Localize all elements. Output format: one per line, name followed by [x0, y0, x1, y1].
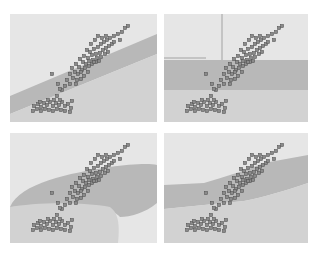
data-point [238, 67, 241, 70]
data-point [83, 174, 86, 177]
data-point [221, 222, 224, 225]
data-point [209, 102, 212, 105]
data-point [190, 227, 193, 230]
data-point [223, 111, 226, 114]
data-point [256, 168, 259, 171]
data-point [95, 53, 98, 56]
data-point [240, 168, 243, 171]
data-point [97, 35, 100, 38]
data-point [64, 204, 67, 207]
data-point [105, 154, 108, 157]
data-point [257, 160, 260, 163]
plot-panel-top-left [10, 14, 157, 122]
data-point [250, 57, 253, 60]
data-point [197, 102, 200, 105]
data-point [56, 108, 59, 111]
data-point [259, 166, 262, 169]
data-point [223, 73, 226, 76]
data-point [241, 176, 244, 179]
data-point [117, 33, 120, 36]
data-point [206, 229, 209, 232]
data-point [210, 95, 213, 98]
data-point [88, 184, 91, 187]
data-point [233, 177, 236, 180]
data-point [78, 66, 81, 69]
data-point [242, 60, 245, 63]
data-point [242, 65, 245, 68]
data-point [225, 186, 228, 189]
scatter-plot [10, 14, 157, 122]
data-point [248, 158, 251, 161]
data-point [107, 170, 110, 173]
data-point [74, 71, 77, 74]
data-point [224, 107, 227, 110]
data-point [51, 73, 54, 76]
data-point [262, 164, 265, 167]
data-point [107, 51, 110, 54]
data-point [88, 179, 91, 182]
data-point [232, 66, 235, 69]
data-point [103, 41, 106, 44]
data-point [47, 99, 50, 102]
data-point [44, 108, 47, 111]
data-point [221, 103, 224, 106]
data-point [83, 75, 86, 78]
data-point [58, 223, 61, 226]
data-point [248, 39, 251, 42]
data-point [90, 43, 93, 46]
data-point [60, 109, 63, 112]
data-point [262, 45, 265, 48]
data-point [261, 51, 264, 54]
data-point [80, 71, 83, 74]
data-point [113, 35, 116, 38]
data-point [53, 99, 56, 102]
data-point [249, 53, 252, 56]
data-point [75, 202, 78, 205]
data-point [252, 179, 255, 182]
data-point [244, 162, 247, 165]
data-point [32, 110, 35, 113]
data-point [105, 166, 108, 169]
data-point [69, 230, 72, 233]
data-point [273, 158, 276, 161]
data-point [52, 110, 55, 113]
data-point [205, 73, 208, 76]
data-point [82, 61, 85, 64]
data-point [253, 52, 256, 55]
data-point [100, 175, 103, 178]
data-point [87, 190, 90, 193]
data-point [198, 227, 201, 230]
data-point [238, 186, 241, 189]
data-point [52, 229, 55, 232]
data-point [239, 63, 242, 66]
data-point [67, 103, 70, 106]
data-point [94, 158, 97, 161]
data-point [57, 83, 60, 86]
data-point [77, 73, 80, 76]
data-point [212, 223, 215, 226]
data-point [186, 229, 189, 232]
data-point [59, 207, 62, 210]
data-point [234, 71, 237, 74]
data-point [75, 83, 78, 86]
data-point [43, 221, 46, 224]
data-point [64, 105, 67, 108]
data-point [102, 168, 105, 171]
data-point [220, 79, 223, 82]
data-point [256, 49, 259, 52]
data-point [93, 61, 96, 64]
data-point [207, 99, 210, 102]
data-point [231, 192, 234, 195]
data-point [80, 78, 83, 81]
data-point [84, 186, 87, 189]
data-point [187, 105, 190, 108]
data-point [93, 180, 96, 183]
data-point [259, 47, 262, 50]
data-point [79, 177, 82, 180]
data-point [229, 182, 232, 185]
data-point [255, 37, 258, 40]
data-point [109, 37, 112, 40]
data-point [234, 78, 237, 81]
data-point [97, 165, 100, 168]
data-point [90, 162, 93, 165]
